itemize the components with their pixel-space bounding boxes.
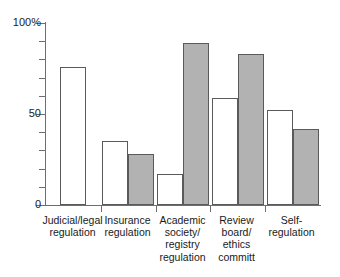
x-axis-line (45, 205, 321, 206)
y-axis-tick-label: 0 (35, 199, 41, 210)
bar-gray (183, 43, 209, 205)
x-axis-category-label: Reviewboard/ethicscommitt (205, 214, 268, 263)
x-axis-category-label: Self-regulation (260, 214, 323, 238)
x-axis-group-tick (101, 206, 102, 212)
x-axis-category-label: Judicial/legalregulation (41, 214, 104, 238)
bar-gray (128, 154, 154, 205)
bar-gray (238, 54, 264, 205)
bar-white (60, 67, 86, 205)
x-axis-category-labels: Judicial/legalregulationInsuranceregulat… (45, 214, 321, 276)
x-axis-category-label-line: Self- (260, 214, 323, 226)
bar-white (212, 98, 238, 205)
x-axis-category-label-line: regulation (260, 226, 323, 238)
x-axis-category-label-line: regulation (41, 226, 104, 238)
chart-figure: 050100% Judicial/legalregulationInsuranc… (0, 0, 340, 277)
x-axis-category-label-line: board/ (205, 226, 268, 238)
y-axis-tick-label: 50 (29, 108, 41, 119)
x-axis-group-tick (210, 206, 211, 212)
bar-gray (293, 129, 319, 205)
x-axis-category-label-line: committ (205, 251, 268, 263)
bar-white (157, 174, 183, 205)
y-axis-tick (39, 132, 45, 133)
x-axis-category-label-line: Insurance (96, 214, 159, 226)
x-axis-category-label-line: regulation (96, 226, 159, 238)
y-axis-tick (39, 169, 45, 170)
y-axis-tick (39, 78, 45, 79)
y-axis-tick (39, 59, 45, 60)
y-axis-tick-label: 100% (13, 17, 41, 28)
y-axis-tick (39, 150, 45, 151)
y-axis-tick (39, 41, 45, 42)
x-axis-category-label-line: Judicial/legal (41, 214, 104, 226)
y-axis-tick (39, 187, 45, 188)
y-axis-tick (39, 96, 45, 97)
bar-white (102, 141, 128, 205)
x-axis-group-tick (265, 206, 266, 212)
x-axis-category-label-line: Review (205, 214, 268, 226)
bar-white (267, 110, 293, 205)
x-axis-category-label-line: ethics (205, 238, 268, 250)
x-axis-group-tick (156, 206, 157, 212)
bars-plot-area (46, 23, 320, 205)
x-axis-category-label: Insuranceregulation (96, 214, 159, 238)
